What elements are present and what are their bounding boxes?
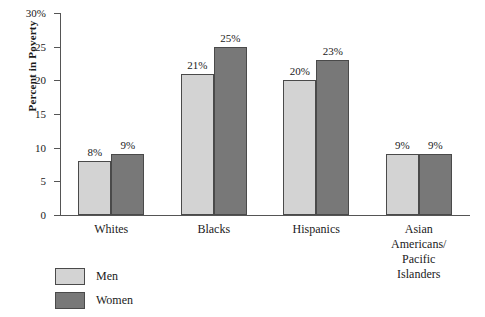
category-label: Blacks xyxy=(197,222,230,237)
y-tick-label: 15 xyxy=(0,108,46,120)
bar-women-0 xyxy=(111,154,144,215)
bar-chart: Percent in Poverty 051015202530% 8%9%21%… xyxy=(0,0,485,317)
bar-men-3 xyxy=(386,154,419,215)
legend-swatch-men-icon xyxy=(55,268,85,285)
bar-value-label: 9% xyxy=(120,139,135,151)
y-tick-label: 30% xyxy=(0,7,46,19)
bar-value-label: 20% xyxy=(290,65,310,77)
bar-value-label: 23% xyxy=(323,45,343,57)
bar-value-label: 9% xyxy=(395,139,410,151)
y-tick-label: 10 xyxy=(0,142,46,154)
category-label: Asian Americans/ Pacific Islanders xyxy=(386,222,452,282)
legend-label-men: Men xyxy=(96,269,118,284)
chart-legend: Men Women xyxy=(55,266,133,314)
y-tick-label: 0 xyxy=(0,209,46,221)
bar-men-2 xyxy=(283,80,316,215)
category-label: Hispanics xyxy=(293,222,340,237)
x-axis-line xyxy=(60,215,470,216)
y-tick-label: 20 xyxy=(0,74,46,86)
bar-women-3 xyxy=(419,154,452,215)
bar-men-1 xyxy=(181,74,214,215)
bar-value-label: 8% xyxy=(87,146,102,158)
y-tick-label: 5 xyxy=(0,175,46,187)
bar-women-1 xyxy=(214,47,247,215)
y-axis-title: Percent in Poverty xyxy=(26,0,38,146)
bar-value-label: 9% xyxy=(428,139,443,151)
legend-swatch-women-icon xyxy=(55,292,85,309)
y-tick-mark xyxy=(54,215,61,216)
bar-women-2 xyxy=(316,60,349,215)
y-tick-label: 25 xyxy=(0,41,46,53)
legend-item-women: Women xyxy=(55,290,133,311)
plot-area: 8%9%21%25%20%23%9%9% xyxy=(60,13,470,215)
legend-item-men: Men xyxy=(55,266,133,287)
legend-label-women: Women xyxy=(96,293,133,308)
category-label: Whites xyxy=(94,222,128,237)
bar-men-0 xyxy=(78,161,111,215)
bar-value-label: 25% xyxy=(220,32,240,44)
bar-value-label: 21% xyxy=(187,59,207,71)
